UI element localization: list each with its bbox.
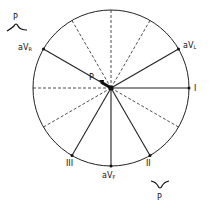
p-wave-label-bottom: P bbox=[157, 193, 162, 202]
upright-p-wave: P bbox=[7, 13, 27, 31]
label-I: I bbox=[194, 84, 196, 93]
label-p-vector: P bbox=[89, 73, 94, 82]
label-aVL: aVL bbox=[183, 41, 196, 50]
axis-III bbox=[72, 88, 111, 156]
inverted-p-wave: P bbox=[151, 181, 169, 202]
label-aVR: aVR bbox=[18, 43, 32, 52]
dashed-axes bbox=[33, 10, 179, 127]
label-aVF: aVF bbox=[102, 171, 115, 180]
solid-axes bbox=[44, 49, 190, 166]
axis-endpoints bbox=[42, 48, 191, 168]
axis-aVL bbox=[111, 49, 179, 88]
label-II: II bbox=[146, 159, 151, 168]
label-III: III bbox=[66, 159, 73, 168]
p-wave-label-top: P bbox=[13, 13, 18, 22]
axis-II bbox=[111, 88, 150, 156]
hexaxial-diagram: I aVL aVR II aVF III P P P bbox=[0, 0, 212, 209]
